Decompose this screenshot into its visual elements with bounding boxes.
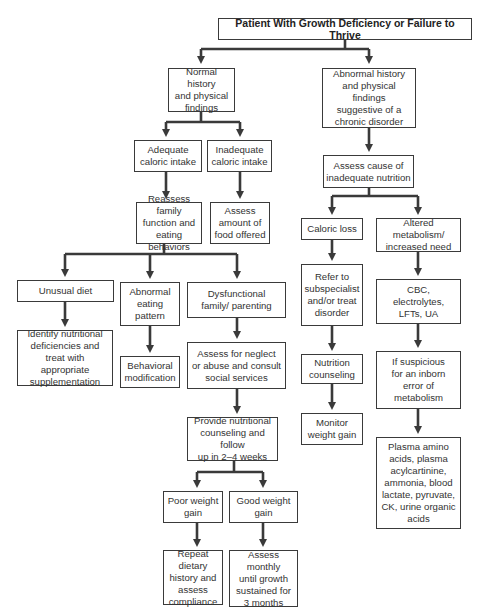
node-assess-neglect: Assess for neglect or abuse and consult …: [187, 342, 286, 389]
node-unusual-diet: Unusual diet: [17, 280, 114, 302]
node-assess-amount: Assess amount of food offered: [210, 202, 270, 244]
node-cbc-labs: CBC, electrolytes, LFTs, UA: [376, 279, 461, 324]
node-caloric-loss: Caloric loss: [301, 218, 363, 240]
node-provide-counseling: Provide nutritional counseling and follo…: [187, 417, 278, 461]
node-abnormal-eating: Abnormal eating pattern: [120, 282, 180, 326]
node-altered-metabolism: Altered metabolism/ increased need: [376, 218, 461, 252]
node-assess-monthly: Assess monthly until growth sustained fo…: [229, 550, 298, 607]
node-dysfunctional-family: Dysfunctional family/ parenting: [187, 282, 286, 318]
node-if-suspicious: If suspicious for an inborn error of met…: [376, 351, 461, 409]
node-abnormal-history: Abnormal history and physical findings s…: [322, 68, 416, 128]
title-box: Patient With Growth Deficiency or Failur…: [218, 18, 472, 40]
node-good-weight-gain: Good weight gain: [229, 491, 298, 523]
node-poor-weight-gain: Poor weight gain: [163, 491, 223, 523]
node-behavioral-modification: Behavioral modification: [120, 356, 180, 388]
node-adequate-intake: Adequate caloric intake: [134, 140, 202, 172]
node-assess-cause: Assess cause of inadequate nutrition: [323, 155, 414, 188]
node-inadequate-intake: Inadequate caloric intake: [207, 140, 272, 172]
node-repeat-history: Repeat dietary history and assess compli…: [163, 550, 223, 605]
node-refer-subspecialist: Refer to subspecialist and/or treat diso…: [301, 264, 363, 326]
node-normal-history: Normal history and physical findings: [168, 68, 235, 112]
node-identify-deficiencies: Identify nutritional deficiencies and tr…: [17, 330, 113, 386]
node-nutrition-counseling: Nutrition counseling: [301, 354, 363, 384]
node-reassess-family: Reassess family function and eating beha…: [136, 202, 202, 244]
node-plasma-tests: Plasma amino acids, plasma acylcartinine…: [376, 437, 461, 529]
flowchart-canvas: Patient With Growth Deficiency or Failur…: [0, 0, 477, 616]
node-monitor-weight: Monitor weight gain: [301, 413, 363, 445]
